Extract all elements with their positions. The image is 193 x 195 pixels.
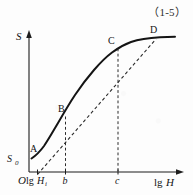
- y-tick-label-s0: S 0: [7, 153, 19, 167]
- curve-point-label-b: B: [58, 103, 65, 114]
- figure-container: （1-5） S S 0 O lg H i: [0, 0, 193, 195]
- x-tick-label-lgHi: lg H i: [26, 175, 47, 188]
- x-tick-lgHi-prefix: lg: [26, 175, 34, 186]
- x-axis-arrowhead: [176, 169, 184, 175]
- x-tick-label-c: c: [115, 175, 120, 186]
- x-axis-label-prefix: lg: [154, 176, 163, 188]
- characteristic-curve-plot: S S 0 O lg H i b c lg H A B C D: [0, 0, 193, 195]
- y-axis-arrowhead: [26, 30, 32, 38]
- y-tick-s0-base: S: [7, 153, 12, 164]
- curve-point-label-a: A: [30, 143, 38, 154]
- origin-label: O: [18, 174, 26, 186]
- y-tick-s0-subscript: 0: [15, 159, 19, 167]
- x-tick-label-b: b: [63, 175, 68, 186]
- x-tick-lgHi-variable: H: [36, 175, 45, 186]
- curve-point-label-d: D: [150, 24, 157, 35]
- y-axis-label: S: [16, 30, 22, 42]
- curve-point-label-c: C: [108, 35, 115, 46]
- x-axis-label-variable: H: [165, 176, 175, 188]
- characteristic-curve-path: [32, 37, 176, 159]
- x-tick-lgHi-subscript: i: [45, 180, 47, 188]
- x-axis-label: lg H: [154, 176, 175, 188]
- straight-line-tangent: [38, 39, 157, 175]
